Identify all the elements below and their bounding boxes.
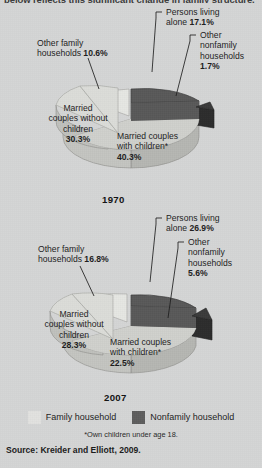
year-label-1970: 1970 [102, 194, 125, 205]
label-mc-with-children-2007-text: Married couples with children* [110, 337, 171, 357]
leader-other-family-2007 [80, 266, 94, 296]
slice-persons-alone-2007-top2 [131, 306, 196, 328]
label-mc-with-children-2007: Married couples with children* 22.5% [110, 337, 206, 368]
legend-entry-nonfamily-household: Nonfamily household [132, 411, 234, 424]
label-mc-with-children-1970-value: 40.3% [117, 152, 141, 162]
label-other-nonfamily-2007-text: Other nonfamily households [188, 237, 232, 268]
label-other-family-2007-value: 16.8% [84, 254, 108, 264]
label-persons-living-alone-2007-value: 26.9% [189, 223, 213, 233]
label-mc-without-children-2007: Married couples without children 28.3% [26, 309, 122, 351]
label-mc-without-children-1970: Married couples without children 30.3% [31, 103, 125, 145]
label-persons-living-alone-1970: Persons living alone 17.1% [166, 7, 240, 28]
label-other-family-1970-text: Other family households [37, 38, 83, 58]
leader-persons-alone-1970 [152, 12, 162, 72]
legend-swatch-family-icon [28, 411, 41, 424]
label-other-nonfamily-1970: Other nonfamily households 1.7% [200, 30, 260, 72]
year-label-2007: 2007 [104, 392, 127, 403]
slice-persons-alone-2007-top [131, 295, 196, 308]
label-other-family-2007-text: Other family households [38, 244, 84, 264]
label-mc-without-children-2007-value: 28.3% [62, 340, 86, 350]
label-mc-with-children-1970-text: Married couples with children* [117, 131, 178, 151]
label-mc-without-children-1970-text: Married couples without children [48, 103, 107, 134]
slice-persons-alone-1970-top [131, 88, 199, 103]
label-other-family-1970: Other family households 10.6% [37, 38, 147, 59]
legend-entry-family-household: Family household [28, 411, 117, 424]
chart-source: Source: Kreider and Elliott, 2009. [6, 445, 141, 455]
clipped-headline: below reflects this significant change i… [4, 0, 262, 3]
label-other-nonfamily-1970-text: Other nonfamily households [200, 30, 244, 61]
label-mc-with-children-2007-value: 22.5% [110, 358, 134, 368]
label-persons-living-alone-1970-value: 17.1% [189, 17, 213, 27]
legend-label-nonfamily-household: Nonfamily household [150, 412, 234, 422]
chart-legend: Family household Nonfamily household [0, 408, 262, 426]
leader-other-nonfamily-1970 [176, 35, 196, 96]
label-mc-with-children-1970: Married couples with children* 40.3% [117, 131, 213, 162]
leader-other-family-1970 [88, 58, 99, 89]
label-other-family-2007: Other family households 16.8% [38, 244, 153, 265]
chart-footnote: *Own children under age 18. [0, 430, 262, 439]
label-other-nonfamily-1970-value: 1.7% [200, 61, 220, 71]
legend-swatch-nonfamily-icon [132, 411, 145, 424]
legend-label-family-household: Family household [46, 412, 117, 422]
label-other-family-1970-value: 10.6% [83, 48, 107, 58]
slice-persons-alone-1970-top2 [131, 101, 199, 121]
label-persons-living-alone-2007: Persons living alone 26.9% [166, 213, 240, 234]
label-other-nonfamily-2007: Other nonfamily households 5.6% [188, 237, 250, 279]
label-mc-without-children-1970-value: 30.3% [66, 134, 90, 144]
label-other-nonfamily-2007-value: 5.6% [188, 268, 208, 278]
label-mc-without-children-2007-text: Married couples without children [44, 309, 103, 340]
